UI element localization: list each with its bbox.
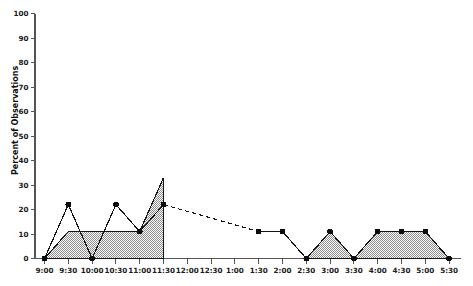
x-tick-label: 12:30 xyxy=(200,266,223,275)
data-point-marker xyxy=(280,229,286,235)
data-point-marker xyxy=(89,256,95,262)
chart-container: 0102030405060708090100 9:009:3010:0010:3… xyxy=(0,0,473,286)
x-tick-label: 12:00 xyxy=(176,266,199,275)
x-tick-label: 11:00 xyxy=(128,266,151,275)
x-tick-label: 4:00 xyxy=(369,266,387,275)
x-tick-label: 3:30 xyxy=(345,266,363,275)
x-tick-label: 3:00 xyxy=(321,266,339,275)
data-point-marker xyxy=(327,229,333,235)
data-point-marker xyxy=(137,229,143,235)
data-point-marker xyxy=(351,256,357,262)
y-tick-label: 10 xyxy=(18,230,28,239)
data-point-marker xyxy=(161,202,167,208)
x-tick-label: 9:00 xyxy=(36,266,54,275)
data-point-marker xyxy=(399,229,405,235)
y-tick-label: 20 xyxy=(18,205,28,214)
y-tick-label: 0 xyxy=(23,254,28,263)
x-tick-label: 9:30 xyxy=(59,266,77,275)
x-tick-label: 1:30 xyxy=(250,266,268,275)
data-point-marker xyxy=(375,229,381,235)
x-tick-label: 5:00 xyxy=(416,266,434,275)
data-point-marker xyxy=(446,256,452,262)
percent-of-observations-chart: 0102030405060708090100 9:009:3010:0010:3… xyxy=(0,0,473,286)
y-tick-label: 90 xyxy=(18,34,28,43)
x-tick-label: 2:00 xyxy=(274,266,292,275)
x-tick-label: 4:30 xyxy=(393,266,411,275)
y-tick-label: 30 xyxy=(18,181,28,190)
data-point-marker xyxy=(65,202,71,208)
data-point-marker xyxy=(42,256,48,262)
data-point-marker xyxy=(303,256,309,262)
y-tick-label: 100 xyxy=(13,9,28,18)
x-tick-label: 5:30 xyxy=(440,266,458,275)
x-tick-label: 2:30 xyxy=(297,266,315,275)
data-point-marker xyxy=(422,229,428,235)
data-point-marker xyxy=(256,229,262,235)
x-tick-label: 1:00 xyxy=(226,266,244,275)
data-point-marker xyxy=(113,202,119,208)
x-tick-label: 10:30 xyxy=(104,266,127,275)
area-segment xyxy=(306,232,449,259)
x-tick-label: 10:00 xyxy=(81,266,104,275)
x-tick-label: 11:30 xyxy=(152,266,175,275)
y-axis-title: Percent of Observations xyxy=(11,66,20,176)
